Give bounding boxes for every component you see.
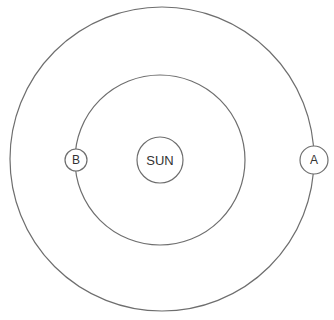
sun-label: SUN xyxy=(146,153,173,168)
solar-orbit-diagram: SUN B A xyxy=(0,0,334,320)
sun: SUN xyxy=(137,137,183,183)
planet-a-label: A xyxy=(310,153,318,167)
planet-a: A xyxy=(300,146,328,174)
planet-b-label: B xyxy=(72,153,80,167)
planet-b: B xyxy=(65,149,87,171)
